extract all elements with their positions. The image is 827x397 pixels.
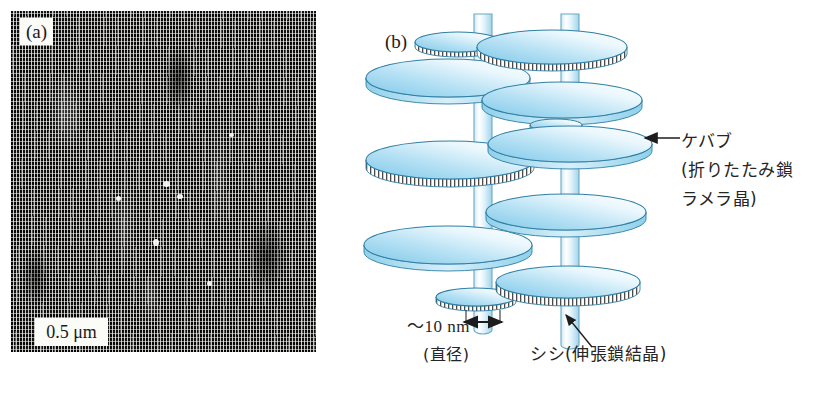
- panel-b-schematic: (b): [330, 0, 827, 397]
- kebab-disk: [482, 82, 642, 125]
- kebab-disk: [364, 226, 532, 271]
- panel-a-tag: (a): [20, 18, 53, 45]
- kebab-disk: [488, 126, 652, 169]
- micrograph-bright-speck: [207, 281, 212, 286]
- kebab-disk: [477, 30, 627, 71]
- kebab-label-line-2: (折りたたみ鎖: [681, 156, 793, 181]
- diameter-value-label: 〜10 nm: [407, 312, 470, 337]
- micrograph-bright-speck: [153, 239, 159, 246]
- diameter-caption-label: (直径): [423, 341, 469, 365]
- panel-a-micrograph: (a) 0.5 μm: [11, 11, 316, 352]
- kebab-label-line-3: ラメラ晶): [681, 185, 757, 210]
- kebab-disk: [486, 194, 646, 237]
- figure-shish-kebab: (a) 0.5 μm (b): [0, 0, 827, 397]
- micrograph-bright-speck: [116, 196, 121, 201]
- scale-bar-label: 0.5 μm: [35, 318, 108, 346]
- micrograph-bright-speck: [229, 133, 234, 137]
- shish-label: シシ(伸張鎖結晶): [530, 340, 667, 365]
- kebab-disk: [496, 266, 640, 306]
- kebab-label-line-1: ケバブ: [681, 127, 733, 152]
- micrograph-bright-speck: [163, 181, 170, 187]
- micrograph-bright-speck: [177, 194, 183, 199]
